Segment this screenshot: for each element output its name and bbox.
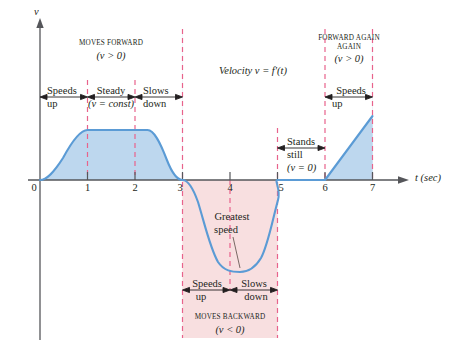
x-tick-label-2: 2 [132,182,137,194]
annotation-slows-down-2-line1: Slows [241,278,267,290]
region-label-forward-again: FORWARD AGAIN [318,34,380,42]
annotation-stands-still-line2: still [287,149,303,161]
x-tick-label-3: 3 [177,182,182,194]
annotation-speeds-up-1-line2: up [47,98,58,110]
y-axis-arrowhead [36,18,43,28]
annotation-steady-line2: (v = const) [88,98,134,110]
x-axis-label: t (sec) [415,172,441,184]
velocity-graph-figure: v t (sec) 0 1 2 3 4 5 6 7 Velocity v = f… [0,0,454,350]
x-tick-label-5: 5 [278,182,283,194]
region-condition-moves-backward: (v < 0) [215,324,244,336]
figure-title: Velocity v = f′(t) [219,65,287,77]
annotation-slows-down-1-line1: Slows [143,85,169,97]
annotation-stands-still-line1: Stands [287,136,315,148]
annotation-speeds-up-3-line2: up [332,98,343,110]
x-tick-label-0: 0 [31,182,36,194]
annotation-speeds-up-2-line1: Speeds [192,278,222,290]
x-tick-label-6: 6 [322,182,327,194]
region-condition-forward-again: (v > 0) [334,53,363,65]
callout-greatest-speed-line1: Greatest [215,211,250,223]
annotation-slows-down-1-line2: down [143,98,166,110]
y-axis-label: v [34,6,39,18]
annotation-stands-still-line3: (v = 0) [287,162,316,174]
region-label-moves-backward: MOVES BACKWARD [195,313,266,321]
region-label-forward-again-line2: AGAIN [337,43,361,51]
annotation-slows-down-2-line2: down [244,291,267,303]
x-tick-label-7: 7 [370,182,375,194]
x-tick-label-4: 4 [227,182,232,194]
x-axis-arrowhead [398,176,409,184]
annotation-steady-line1: Steady [97,85,126,97]
plot-canvas [0,0,454,350]
annotation-speeds-up-1-line1: Speeds [47,85,77,97]
annotation-speeds-up-3-line1: Speeds [336,85,366,97]
annotation-speeds-up-2-line2: up [196,291,207,303]
region-label-moves-forward: MOVES FORWARD [79,39,143,47]
callout-greatest-speed-line2: speed [214,224,238,236]
arrow-head-left-6 [278,145,285,150]
arrow-head-right-6 [318,145,325,150]
x-tick-label-1: 1 [85,182,90,194]
region-condition-moves-forward: (v > 0) [96,50,125,62]
